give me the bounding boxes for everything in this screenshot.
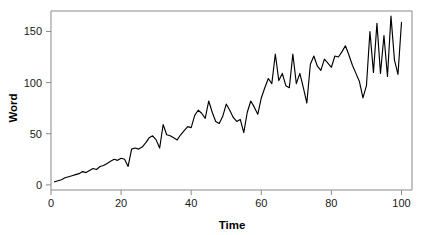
line-chart-plot: 020406080100 050100150 Time Word xyxy=(0,0,431,235)
y-tick-label: 50 xyxy=(30,128,42,140)
y-axis-title: Word xyxy=(7,93,19,122)
x-tick-label: 100 xyxy=(392,197,410,209)
x-tick-label: 60 xyxy=(255,197,267,209)
x-axis-title: Time xyxy=(219,219,246,231)
y-tick-label: 0 xyxy=(36,179,42,191)
x-tick-label: 80 xyxy=(325,197,337,209)
y-tick-label: 100 xyxy=(24,77,42,89)
x-tick-label: 0 xyxy=(48,197,54,209)
x-tick-label: 20 xyxy=(115,197,127,209)
x-tick-label: 40 xyxy=(185,197,197,209)
chart-background xyxy=(0,0,431,235)
y-tick-label: 150 xyxy=(24,25,42,37)
chart-container: 020406080100 050100150 Time Word xyxy=(0,0,431,235)
